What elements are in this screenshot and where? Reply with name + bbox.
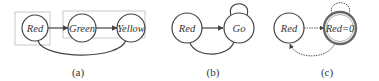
- edge-go-red: [190, 42, 234, 54]
- caption-c: (c): [321, 66, 334, 79]
- svg-text:Red: Red: [178, 23, 196, 34]
- panel-c: Red Red=0 (c): [274, 3, 356, 79]
- svg-text:Red: Red: [280, 23, 298, 34]
- node-red: Red: [172, 13, 202, 43]
- node-yellow: Yellow: [117, 14, 145, 42]
- svg-text:Green: Green: [69, 23, 95, 34]
- caption-a: (a): [72, 66, 85, 79]
- edge-red0-red: [290, 43, 335, 56]
- node-go: Go: [224, 13, 254, 43]
- state-diagram-figure: Red Green Yellow (a) Red Go (b): [0, 0, 379, 81]
- node-red: Red: [274, 13, 304, 43]
- node-red: Red: [22, 15, 48, 41]
- panel-b: Red Go (b): [172, 4, 254, 79]
- svg-text:Go: Go: [233, 23, 246, 34]
- panel-a: Red Green Yellow (a): [15, 11, 145, 79]
- node-green: Green: [68, 14, 96, 42]
- svg-text:Red: Red: [26, 23, 44, 34]
- caption-b: (b): [207, 66, 220, 79]
- svg-text:Red=0: Red=0: [325, 23, 355, 34]
- node-red-equals-zero: Red=0: [324, 12, 356, 44]
- svg-text:Yellow: Yellow: [117, 23, 145, 34]
